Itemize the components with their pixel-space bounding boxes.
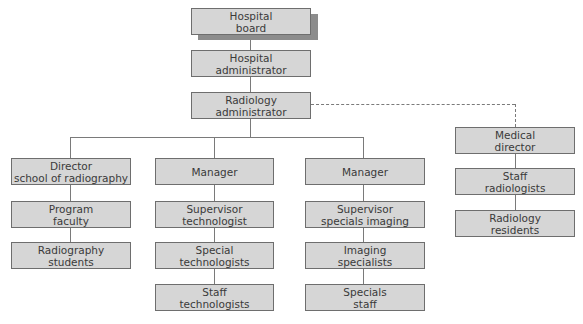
connector-hospital-admin-to-radiology-admin bbox=[250, 76, 251, 92]
connector-col1-1 bbox=[70, 184, 71, 201]
connector-to-col1 bbox=[70, 137, 71, 158]
connector-radiology-admin-down bbox=[250, 118, 251, 137]
connector-col2-1 bbox=[214, 184, 215, 201]
connector-col4-2 bbox=[515, 195, 516, 210]
connector-to-col2 bbox=[214, 137, 215, 158]
node-radiography-students: Radiography students bbox=[11, 242, 131, 269]
connector-col2-3 bbox=[214, 268, 215, 284]
connector-branch-horizontal bbox=[70, 137, 364, 138]
node-staff-radiologists: Staff radiologists bbox=[455, 168, 575, 195]
org-chart: Hospital board Hospital administrator Ra… bbox=[0, 0, 583, 324]
dashed-connector-horizontal bbox=[311, 104, 515, 105]
connector-col4-1 bbox=[515, 153, 516, 168]
node-radiology-residents: Radiology residents bbox=[455, 210, 575, 237]
node-staff-technologists: Staff technologists bbox=[155, 284, 274, 311]
node-imaging-specialists: Imaging specialists bbox=[305, 242, 425, 269]
node-manager-technologists: Manager bbox=[155, 158, 274, 185]
node-radiology-administrator: Radiology administrator bbox=[191, 92, 311, 119]
connector-col2-2 bbox=[214, 227, 215, 242]
dashed-connector-vertical bbox=[515, 104, 516, 127]
node-manager-specials: Manager bbox=[305, 158, 425, 185]
node-medical-director: Medical director bbox=[455, 127, 575, 154]
node-hospital-board: Hospital board bbox=[191, 8, 311, 35]
node-special-technologists: Special technologists bbox=[155, 242, 274, 269]
connector-to-col3 bbox=[363, 137, 364, 158]
connector-col3-2 bbox=[363, 227, 364, 242]
connector-col3-1 bbox=[363, 184, 364, 201]
node-program-faculty: Program faculty bbox=[11, 201, 131, 228]
connector-col3-3 bbox=[363, 268, 364, 284]
node-specials-staff: Specials staff bbox=[305, 284, 425, 311]
node-supervisor-specials-imaging: Supervisor specials imaging bbox=[305, 201, 425, 228]
connector-col1-2 bbox=[70, 227, 71, 242]
node-director-school-of-radiography: Director school of radiography bbox=[11, 158, 131, 185]
node-hospital-administrator: Hospital administrator bbox=[191, 50, 311, 77]
node-supervisor-technologist: Supervisor technologist bbox=[155, 201, 274, 228]
